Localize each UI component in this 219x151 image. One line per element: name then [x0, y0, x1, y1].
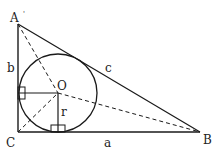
label-A-prime: ' — [23, 10, 25, 18]
label-side-a: a — [104, 136, 111, 150]
label-radius: r — [61, 105, 67, 119]
label-O: O — [57, 79, 67, 93]
side-c — [18, 24, 200, 132]
label-side-b: b — [7, 61, 15, 75]
label-B: B — [203, 133, 212, 147]
label-side-c: c — [105, 61, 112, 75]
incircle-diagram: A ' C B O b c a r — [0, 0, 219, 151]
label-A: A — [9, 11, 19, 25]
bisector-A — [18, 24, 58, 93]
label-C: C — [6, 136, 15, 150]
diagram-canvas: A ' C B O b c a r — [0, 0, 219, 151]
